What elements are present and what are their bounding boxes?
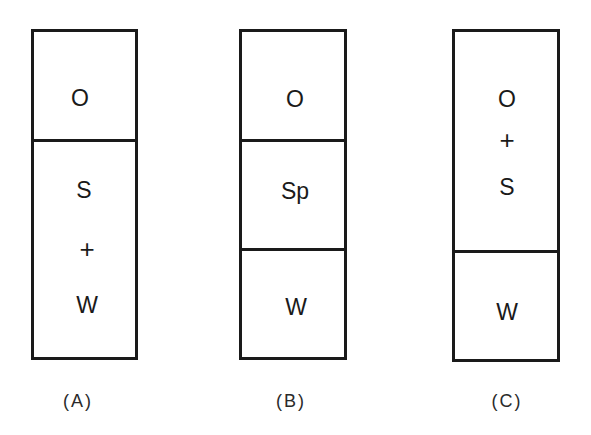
caption-b: (B) <box>276 391 306 412</box>
column-c-layer-1-plus: + <box>499 127 514 153</box>
column-a: O S + W <box>31 29 138 360</box>
column-b-layer-2-label-sp: Sp <box>281 180 309 203</box>
column-c-divider <box>452 250 560 253</box>
column-a-divider <box>31 139 138 142</box>
column-c: O + S W <box>452 29 560 362</box>
column-c-layer-1-label-o: O <box>498 88 516 111</box>
column-b-layer-3-label-w: W <box>285 296 307 319</box>
column-b: O Sp W <box>239 29 347 360</box>
column-b-divider-1 <box>239 139 347 142</box>
column-c-layer-2-label-w: W <box>496 301 518 324</box>
column-a-layer-1-label-o: O <box>71 87 89 110</box>
column-a-layer-2-plus: + <box>79 236 94 262</box>
column-b-divider-2 <box>239 248 347 251</box>
column-c-layer-1-label-s: S <box>499 176 514 199</box>
caption-a: (A) <box>63 391 93 412</box>
column-a-layer-2-label-w: W <box>76 294 98 317</box>
column-b-layer-1-label-o: O <box>286 88 304 111</box>
caption-c: (C) <box>492 391 523 412</box>
column-a-layer-2-label-s: S <box>76 179 91 202</box>
